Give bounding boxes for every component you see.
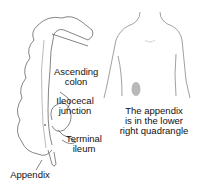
caption-appendix-location: The appendix is in the lower right quadr… <box>112 106 196 136</box>
anatomy-illustration <box>0 0 197 185</box>
label-ascending-colon: Ascending colon <box>54 67 98 87</box>
ileocecal-marker <box>44 124 46 126</box>
torso-drawing <box>104 12 190 98</box>
label-terminal-ileum: Terminal ileum <box>66 134 102 154</box>
label-appendix: Appendix <box>4 170 56 180</box>
label-ileocecal-junction: Ileocecal junction <box>52 96 98 116</box>
appendix-location-highlight <box>132 82 141 96</box>
